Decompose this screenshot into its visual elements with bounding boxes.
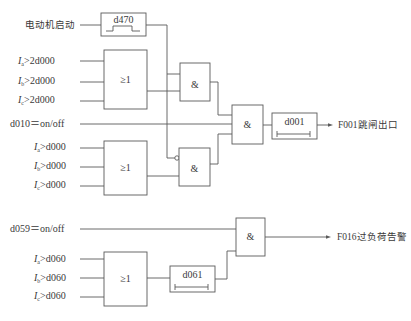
inverter-bubble-icon [175,156,179,160]
and-gate-4-symbol: & [236,231,265,243]
condition-text: >d000 [40,179,66,190]
pulse-block-label: d470 [101,14,146,26]
arrow-icon [326,235,331,238]
input-label-d010: d010＝on/off [10,118,64,130]
input-label-d059: d059＝on/off [10,223,64,235]
input-label-ib-2d000: Ib>2d000 [18,75,55,90]
condition-text: >d060 [40,253,66,264]
input-label-motor-start: 电动机启动 [25,19,75,31]
input-label-ia-d000: Ia>d000 [34,141,66,156]
input-label-ib-d000: Ib>d000 [34,160,66,175]
and-gate-3-symbol: & [232,119,263,131]
condition-text: >2d000 [24,94,55,105]
input-label-ia-d060: Ia>d060 [34,253,66,268]
input-label-ic-d000: Ic>d000 [34,179,66,194]
condition-text: >d060 [40,272,66,283]
condition-text: >d000 [40,160,66,171]
condition-text: >d060 [40,290,66,301]
timer-d001-label: d001 [272,116,317,128]
condition-text: >d000 [40,141,66,152]
input-label-ic-2d000: Ic>2d000 [18,94,55,109]
and-gate-1-symbol: & [180,79,210,91]
arrow-icon [328,123,333,126]
input-label-ib-d060: Ib>d060 [34,272,66,287]
condition-text: >2d000 [24,75,55,86]
or-gate-1-symbol: ≥1 [104,74,147,86]
or-gate-3-symbol: ≥1 [104,273,147,285]
input-label-ia-2d000: Ia>2d000 [18,55,55,70]
and-gate-2-symbol: & [179,163,210,175]
condition-text: >2d000 [24,55,55,66]
output-label-f016-overload-alarm: F016过负荷告警 [337,231,407,243]
output-label-f001-trip: F001跳闸出口 [338,119,398,131]
and-gate-2 [167,134,232,186]
or-gate-2-symbol: ≥1 [104,162,147,174]
timer-d061-label: d061 [170,269,215,281]
input-label-ic-d060: Ic>d060 [34,290,66,305]
